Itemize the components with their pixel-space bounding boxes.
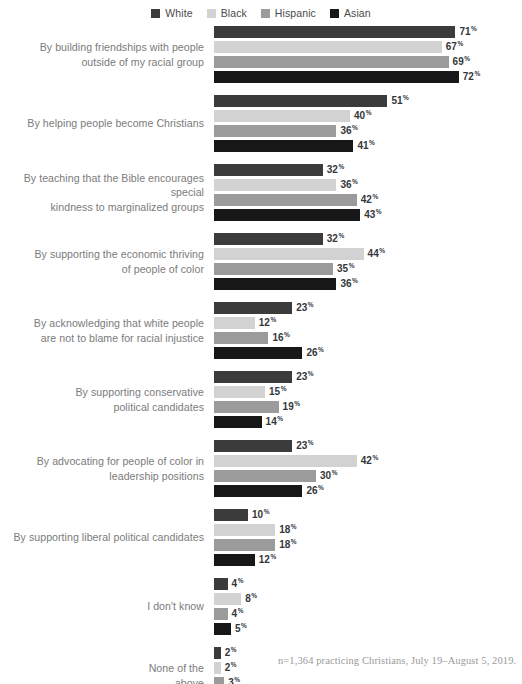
bar-black[interactable] — [214, 248, 364, 260]
bar-hispanic[interactable] — [214, 539, 275, 551]
bar-hispanic[interactable] — [214, 125, 336, 137]
bar-row[interactable]: 5% — [214, 623, 522, 635]
bar-row[interactable]: 19% — [214, 401, 522, 413]
legend-item-white[interactable]: White — [151, 8, 192, 19]
bar-row[interactable]: 23% — [214, 371, 522, 383]
bar-hispanic[interactable] — [214, 332, 268, 344]
bar-row[interactable]: 4% — [214, 578, 522, 590]
bar-row[interactable]: 32% — [214, 233, 522, 245]
bar-row[interactable]: 30% — [214, 470, 522, 482]
bar-row[interactable]: 23% — [214, 302, 522, 314]
bar-black[interactable] — [214, 593, 241, 605]
bar-value-label: 26% — [306, 485, 323, 496]
bar-row[interactable]: 35% — [214, 263, 522, 275]
percent-sign: % — [308, 370, 314, 377]
bar-row[interactable]: 14% — [214, 416, 522, 428]
bar-asian[interactable] — [214, 623, 231, 635]
bar-white[interactable] — [214, 440, 292, 452]
bar-value-label: 30% — [320, 470, 337, 481]
bar-row[interactable]: 12% — [214, 317, 522, 329]
bar-white[interactable] — [214, 26, 455, 38]
bar-asian[interactable] — [214, 71, 459, 83]
bar-value-number: 36 — [340, 126, 351, 137]
bar-white[interactable] — [214, 371, 292, 383]
bar-row[interactable]: 36% — [214, 278, 522, 290]
bar-hispanic[interactable] — [214, 194, 357, 206]
bar-row[interactable]: 72% — [214, 71, 522, 83]
bar-row[interactable]: 26% — [214, 347, 522, 359]
bar-row[interactable]: 44% — [214, 248, 522, 260]
bar-hispanic[interactable] — [214, 470, 316, 482]
bar-black[interactable] — [214, 455, 357, 467]
bar-row[interactable]: 69% — [214, 56, 522, 68]
bar-asian[interactable] — [214, 416, 262, 428]
percent-sign: % — [352, 277, 358, 284]
bar-white[interactable] — [214, 647, 221, 659]
percent-sign: % — [352, 124, 358, 131]
bar-white[interactable] — [214, 95, 387, 107]
bar-row[interactable]: 12% — [214, 554, 522, 566]
bar-row[interactable]: 18% — [214, 539, 522, 551]
bar-row[interactable]: 23% — [214, 440, 522, 452]
bar-asian[interactable] — [214, 209, 360, 221]
bar-row[interactable]: 32% — [214, 164, 522, 176]
bar-row[interactable]: 36% — [214, 179, 522, 191]
bar-row[interactable]: 67% — [214, 41, 522, 53]
bar-row[interactable]: 42% — [214, 194, 522, 206]
bar-black[interactable] — [214, 179, 336, 191]
bar-asian[interactable] — [214, 347, 302, 359]
legend-item-asian[interactable]: Asian — [330, 8, 371, 19]
bar-hispanic[interactable] — [214, 56, 449, 68]
bar-row[interactable]: 71% — [214, 26, 522, 38]
bar-black[interactable] — [214, 662, 221, 674]
bar-row[interactable]: 15% — [214, 386, 522, 398]
bar-white[interactable] — [214, 302, 292, 314]
bar-hispanic[interactable] — [214, 608, 228, 620]
bar-white[interactable] — [214, 164, 323, 176]
bar-hispanic[interactable] — [214, 401, 279, 413]
category-label: By teaching that the Bible encourages sp… — [0, 171, 214, 215]
category-label-line: By helping people become Christians — [0, 116, 204, 131]
bar-white[interactable] — [214, 578, 228, 590]
bar-row[interactable]: 10% — [214, 509, 522, 521]
bar-row[interactable]: 51% — [214, 95, 522, 107]
bar-row[interactable]: 16% — [214, 332, 522, 344]
bar-row[interactable]: 26% — [214, 485, 522, 497]
bar-row[interactable]: 36% — [214, 125, 522, 137]
bar-row[interactable]: 3% — [214, 677, 522, 684]
bar-value-label: 5% — [235, 623, 247, 634]
bar-asian[interactable] — [214, 485, 302, 497]
bar-row[interactable]: 8% — [214, 593, 522, 605]
bar-row[interactable]: 4% — [214, 608, 522, 620]
legend-item-hispanic[interactable]: Hispanic — [261, 8, 316, 19]
percent-sign: % — [471, 25, 477, 32]
bar-asian[interactable] — [214, 278, 336, 290]
bar-value-label: 40% — [354, 110, 371, 121]
legend-item-black[interactable]: Black — [207, 8, 247, 19]
bar-row[interactable]: 18% — [214, 524, 522, 536]
bar-black[interactable] — [214, 524, 275, 536]
percent-sign: % — [270, 316, 276, 323]
bar-value-number: 51 — [391, 96, 402, 107]
bar-black[interactable] — [214, 386, 265, 398]
bar-white[interactable] — [214, 233, 323, 245]
bar-value-label: 23% — [296, 440, 313, 451]
bar-white[interactable] — [214, 509, 248, 521]
percent-sign: % — [234, 676, 240, 683]
bar-row[interactable]: 40% — [214, 110, 522, 122]
bar-row[interactable]: 41% — [214, 140, 522, 152]
bar-row[interactable]: 42% — [214, 455, 522, 467]
bar-value-label: 72% — [463, 71, 480, 82]
bar-hispanic[interactable] — [214, 677, 224, 684]
chart-group: By teaching that the Bible encourages sp… — [0, 164, 522, 221]
bar-asian[interactable] — [214, 140, 353, 152]
percent-sign: % — [379, 247, 385, 254]
bar-black[interactable] — [214, 110, 350, 122]
bar-asian[interactable] — [214, 554, 255, 566]
bar-value-number: 23 — [296, 303, 307, 314]
bar-value-number: 19 — [283, 402, 294, 413]
bar-hispanic[interactable] — [214, 263, 333, 275]
bar-black[interactable] — [214, 41, 442, 53]
bar-black[interactable] — [214, 317, 255, 329]
bar-row[interactable]: 43% — [214, 209, 522, 221]
